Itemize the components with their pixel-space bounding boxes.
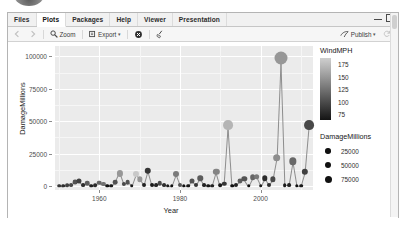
colorbar-tick-mark (334, 114, 337, 115)
size-legend: DamageMillions 250005000075000 (320, 132, 398, 186)
size-legend-row: 50000 (320, 158, 398, 172)
plot-canvas: DamageMillions Year 02500050000750001000… (8, 42, 398, 220)
x-tick-mark (99, 190, 100, 193)
colorbar-legend: WindMPH 17515012510075 (320, 46, 398, 120)
colorbar-tick-mark (334, 64, 337, 65)
chevron-down-icon: ▾ (118, 32, 121, 37)
colorbar-tick-label: 100 (338, 98, 349, 105)
x-tick-mark (261, 190, 262, 193)
plots-pane: Files Plots Packages Help Viewer Present… (7, 12, 399, 218)
publish-icon (340, 30, 349, 38)
size-legend-label: 50000 (341, 162, 359, 169)
toolbar-separator-4 (149, 30, 150, 39)
publish-label: Publish (351, 31, 372, 38)
forward-button[interactable] (27, 30, 39, 38)
publish-chevron-down-icon: ▾ (373, 32, 376, 37)
colorbar-tick-label: 125 (338, 86, 349, 93)
size-legend-row: 75000 (320, 172, 398, 186)
size-legend-row: 25000 (320, 144, 398, 158)
x-tick-label: 2000 (253, 195, 267, 202)
tab-files-label: Files (14, 16, 30, 23)
tab-plots-label: Plots (43, 16, 60, 23)
tab-presentation[interactable]: Presentation (173, 13, 227, 26)
size-legend-rows: 250005000075000 (320, 144, 398, 186)
publish-button[interactable]: Publish ▾ (338, 30, 378, 38)
plots-toolbar: Zoom Export ▾ (8, 27, 398, 42)
size-legend-title: DamageMillions (320, 132, 398, 141)
export-button[interactable]: Export ▾ (87, 30, 123, 38)
scrollbar-thumb[interactable] (392, 15, 397, 29)
minimize-icon[interactable] (374, 14, 382, 22)
tab-plots[interactable]: Plots (37, 13, 67, 27)
colorbar-tick-labels: 17515012510075 (334, 58, 374, 120)
size-legend-label: 25000 (341, 148, 359, 155)
back-button[interactable] (11, 30, 23, 38)
size-legend-dot-box (320, 148, 336, 154)
background-artifact (14, 0, 44, 6)
colorbar-tick-mark (334, 102, 337, 103)
tab-packages-label: Packages (72, 16, 103, 23)
x-tick-label: 1980 (173, 195, 187, 202)
size-legend-dot (325, 176, 332, 183)
back-arrow-icon (13, 30, 21, 38)
size-legend-dot (325, 162, 331, 168)
tab-packages[interactable]: Packages (66, 13, 110, 26)
zoom-button[interactable]: Zoom (48, 30, 78, 38)
toolbar-separator-3 (127, 30, 128, 39)
export-label: Export (98, 31, 116, 38)
forward-arrow-icon (29, 30, 37, 38)
remove-plot-button[interactable] (132, 30, 145, 39)
size-legend-label: 75000 (341, 176, 359, 183)
tab-viewer[interactable]: Viewer (138, 13, 173, 26)
plot-legends: WindMPH 17515012510075 DamageMillions 25… (320, 46, 398, 186)
tab-help-label: Help (116, 16, 131, 23)
colorbar-tick-label: 175 (338, 61, 349, 68)
toolbar-separator-2 (82, 30, 83, 39)
toolbar-right-group: Publish ▾ (338, 30, 395, 38)
pane-tab-strip: Files Plots Packages Help Viewer Present… (8, 13, 398, 27)
broom-icon (156, 30, 164, 39)
vertical-scrollbar[interactable] (390, 13, 398, 217)
size-legend-dot-box (320, 162, 336, 168)
size-legend-dot (325, 148, 331, 154)
size-legend-dot-box (320, 176, 336, 183)
colorbar-tick-label: 75 (338, 111, 345, 118)
toolbar-separator-1 (43, 30, 44, 39)
remove-circle-icon (134, 30, 143, 39)
x-tick-mark (180, 190, 181, 193)
windmph-colorbar (320, 58, 331, 120)
tab-help[interactable]: Help (110, 13, 138, 26)
colorbar-legend-title: WindMPH (320, 46, 398, 55)
colorbar-tick-label: 150 (338, 73, 349, 80)
tab-presentation-label: Presentation (179, 16, 220, 23)
colorbar-tick-mark (334, 89, 337, 90)
tab-viewer-label: Viewer (144, 16, 166, 23)
x-tick-label: 1960 (92, 195, 106, 202)
clear-all-plots-button[interactable] (154, 30, 166, 39)
zoom-label: Zoom (60, 31, 76, 38)
colorbar-tick-mark (334, 77, 337, 78)
tab-files[interactable]: Files (8, 13, 37, 26)
magnifier-icon (50, 30, 58, 38)
export-icon (89, 30, 97, 38)
screenshot-root: Files Plots Packages Help Viewer Present… (0, 0, 407, 227)
